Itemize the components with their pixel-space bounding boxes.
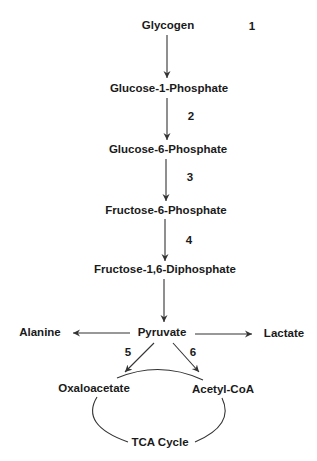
node-oxaloacetate: Oxaloacetate bbox=[58, 383, 130, 395]
node-pyruvate: Pyruvate bbox=[138, 327, 187, 339]
cycle-arc-left bbox=[93, 397, 128, 442]
node-lactate: Lactate bbox=[264, 328, 304, 340]
node-alanine: Alanine bbox=[19, 327, 61, 339]
node-glucose-1-phosphate: Glucose-1-Phosphate bbox=[110, 83, 228, 95]
node-fructose-1-6-diphosphate: Fructose-1,6-Diphosphate bbox=[94, 264, 236, 276]
pathway-connectors bbox=[0, 0, 317, 461]
step-number-3: 3 bbox=[187, 172, 193, 184]
step-number-2: 2 bbox=[188, 111, 194, 123]
node-glycogen: Glycogen bbox=[142, 20, 194, 32]
step-number-1: 1 bbox=[249, 21, 255, 33]
node-glucose-6-phosphate: Glucose-6-Phosphate bbox=[109, 144, 227, 156]
cycle-arc-right bbox=[195, 398, 225, 442]
step-number-4: 4 bbox=[186, 235, 192, 247]
step-number-6: 6 bbox=[190, 347, 196, 359]
step-number-5: 5 bbox=[125, 347, 131, 359]
node-fructose-6-phosphate: Fructose-6-Phosphate bbox=[105, 205, 226, 217]
cycle-arc-top bbox=[117, 369, 203, 380]
node-tca-cycle: TCA Cycle bbox=[131, 437, 188, 449]
node-acetyl-coa: Acetyl-CoA bbox=[192, 384, 254, 396]
